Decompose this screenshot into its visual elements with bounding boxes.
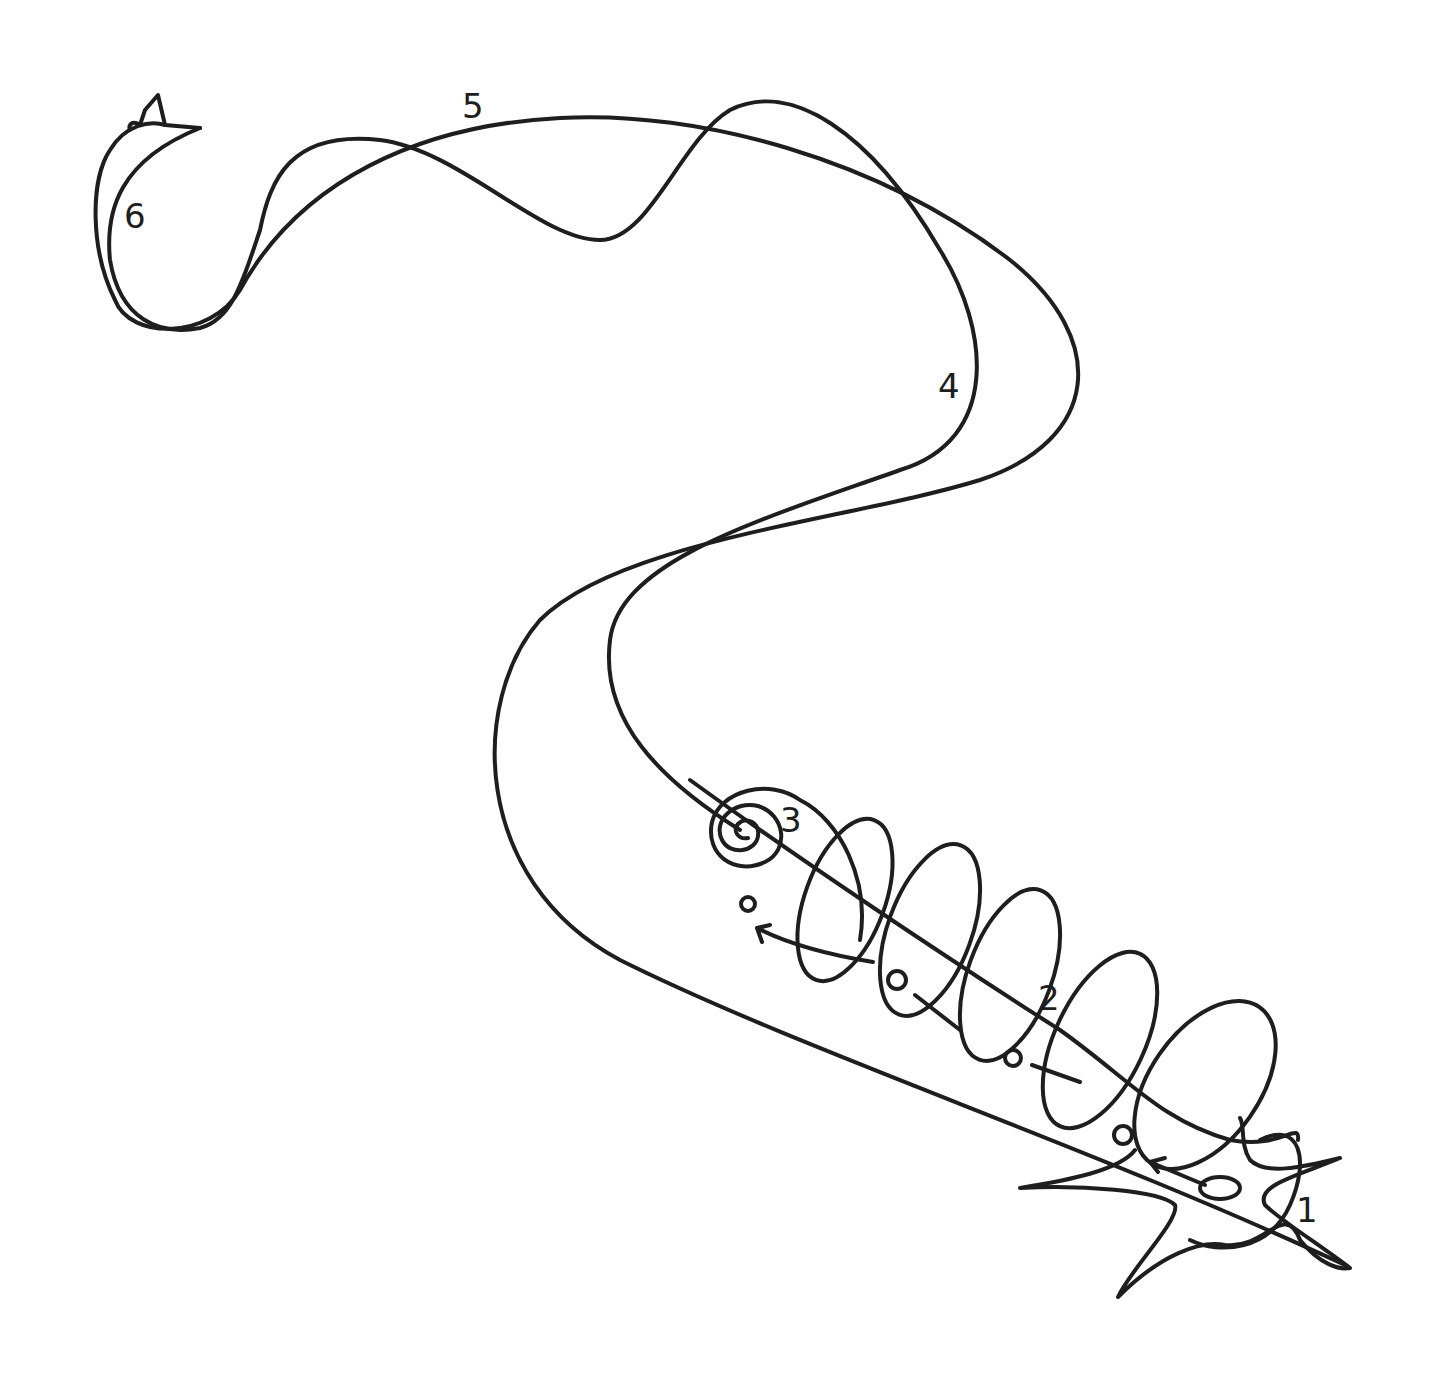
label-3: 3	[780, 800, 802, 840]
label-1: 1	[1296, 1190, 1318, 1230]
outer-path	[96, 117, 1345, 1265]
label-5: 5	[462, 86, 484, 126]
arrow-1	[757, 925, 873, 962]
label-2: 2	[1038, 978, 1060, 1018]
label-6: 6	[124, 196, 146, 236]
inner-path	[109, 101, 977, 830]
sketch: 1 2 3 4 5 6	[0, 0, 1433, 1381]
diagram-canvas: 1 2 3 4 5 6	[0, 0, 1433, 1381]
flame-tip	[129, 95, 200, 130]
label-4: 4	[938, 366, 960, 406]
